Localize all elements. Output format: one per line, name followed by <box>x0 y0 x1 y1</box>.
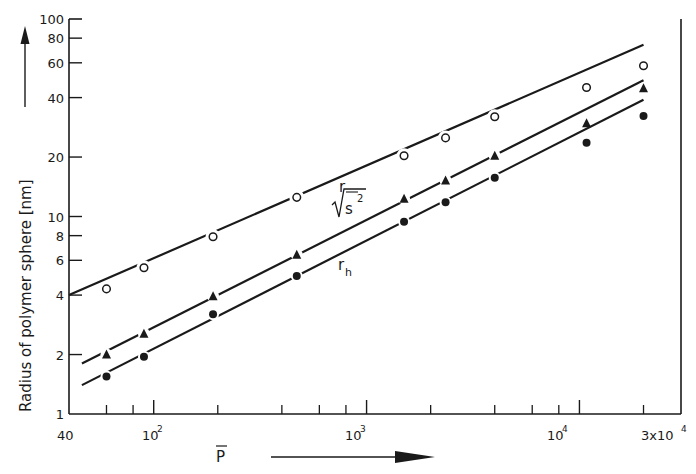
curve-label-rh-base: r <box>338 256 345 274</box>
x-tick-label-40: 40 <box>57 428 74 443</box>
open-circle-marker <box>442 134 450 142</box>
x-tick-label-30000: 3x10 <box>641 428 674 443</box>
y-axis-arrow-icon <box>21 26 30 107</box>
filled-circle-marker <box>102 372 110 380</box>
y-tick-label-100: 100 <box>39 12 64 27</box>
x-tick-exp-3: 3 <box>360 424 366 434</box>
series-r <box>69 45 649 295</box>
open-circle-marker <box>640 62 648 70</box>
y-tick-label-40: 40 <box>47 91 64 106</box>
curve-label-rh-subscript: h <box>345 266 352 279</box>
y-axis-ticks: 124681020406080100 <box>39 12 82 422</box>
curve-label-s-exponent: 2 <box>357 193 363 204</box>
y-tick-label-10: 10 <box>47 210 64 225</box>
x-tick-exp-4: 4 <box>562 424 568 434</box>
x-axis-title: P <box>216 446 227 466</box>
x-axis-ticks <box>106 400 643 414</box>
series-rh <box>82 100 650 385</box>
filled-circle-marker <box>140 353 148 361</box>
y-tick-label-2: 2 <box>56 348 64 363</box>
y-tick-label-1: 1 <box>56 407 64 422</box>
filled-circle-marker <box>442 198 450 206</box>
curve-label-s: s <box>345 200 353 218</box>
y-tick-label-80: 80 <box>47 31 64 46</box>
y-tick-label-8: 8 <box>56 229 64 244</box>
y-tick-label-20: 20 <box>47 150 64 165</box>
y-tick-label-6: 6 <box>56 253 64 268</box>
x-tick-exp-right: 4 <box>681 424 687 434</box>
open-circle-marker <box>400 152 408 160</box>
filled-circle-marker <box>491 174 499 182</box>
fit-line <box>69 45 644 295</box>
filled-circle-marker <box>209 310 217 318</box>
y-tick-label-4: 4 <box>56 288 64 303</box>
fit-line <box>82 100 644 385</box>
open-circle-marker <box>293 194 301 202</box>
series-rms-radius <box>82 80 650 363</box>
filled-circle-marker <box>640 112 648 120</box>
curve-label-rh: r h <box>338 256 352 279</box>
open-circle-marker <box>583 84 591 92</box>
filled-circle-marker <box>583 139 591 147</box>
data-series <box>69 45 650 385</box>
open-circle-marker <box>209 233 217 241</box>
log-log-chart: 124681020406080100 r s 2 r h Radius of p… <box>0 0 696 474</box>
y-axis-title: Radius of polymer sphere [nm] <box>17 179 35 412</box>
curve-label-r: r <box>339 178 346 196</box>
x-tick-exp-2: 2 <box>157 424 163 434</box>
filled-circle-marker <box>400 218 408 226</box>
x-axis-arrow-icon <box>271 451 435 463</box>
fit-line <box>82 80 644 363</box>
curve-label-rms-radius: s 2 <box>332 189 366 218</box>
open-circle-marker <box>491 113 499 121</box>
open-circle-marker <box>103 285 111 293</box>
open-circle-marker <box>140 264 148 272</box>
filled-circle-marker <box>293 272 301 280</box>
x-axis-title-text: P <box>216 448 225 466</box>
x-tick-labels: 40 10 2 10 3 10 4 3x10 4 <box>57 424 687 443</box>
y-tick-label-60: 60 <box>47 56 64 71</box>
